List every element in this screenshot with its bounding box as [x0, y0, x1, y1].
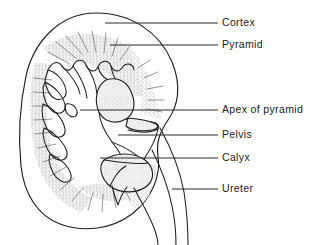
- kidney-diagram-svg: Cortex Pyramid Apex of pyramid Pelvis Ca…: [0, 0, 328, 245]
- label-ureter: Ureter: [222, 182, 253, 194]
- kidney-diagram-figure: Cortex Pyramid Apex of pyramid Pelvis Ca…: [0, 0, 328, 245]
- label-cortex: Cortex: [222, 16, 255, 28]
- label-apex-of-pyramid: Apex of pyramid: [222, 103, 303, 115]
- label-calyx: Calyx: [222, 151, 250, 163]
- label-pyramid: Pyramid: [222, 38, 263, 50]
- label-pelvis: Pelvis: [222, 128, 252, 140]
- label-texts: Cortex Pyramid Apex of pyramid Pelvis Ca…: [222, 16, 303, 194]
